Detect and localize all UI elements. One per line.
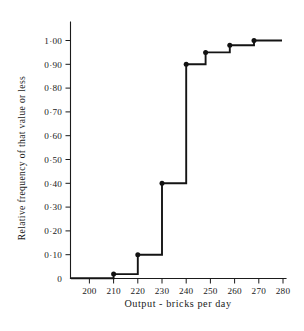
x-tick-label-220: 220: [131, 286, 146, 296]
y-tick-label-0.40: 0·40: [44, 179, 62, 189]
y-tick-label-0.90: 0·90: [44, 60, 62, 70]
y-axis-title: Relative frequency of that value or less: [16, 76, 27, 240]
y-tick-label-0.20: 0·20: [44, 226, 62, 236]
x-tick-label-210: 210: [106, 286, 121, 296]
cumulative-frequency-chart: 1·00 0·90 0·80 0·70 0·60 0·50 0·40 0·30 …: [0, 0, 304, 331]
chart-canvas: 1·00 0·90 0·80 0·70 0·60 0·50 0·40 0·30 …: [0, 0, 304, 331]
data-point-248: [203, 50, 208, 55]
x-tick-label-230: 230: [155, 286, 170, 296]
y-tick-label-0.60: 0·60: [44, 131, 62, 141]
x-tick-label-250: 250: [203, 286, 218, 296]
data-point-230: [160, 181, 165, 186]
y-tick-label-0.80: 0·80: [44, 83, 62, 93]
x-tick-label-280: 280: [276, 286, 291, 296]
cumulative-step-curve: [71, 41, 282, 279]
y-tick-label-0.50: 0·50: [44, 155, 62, 165]
data-point-258: [227, 43, 232, 48]
y-axis-ticks: [66, 41, 71, 255]
x-axis-ticks: [89, 279, 283, 284]
y-tick-label-0.30: 0·30: [44, 202, 62, 212]
x-tick-label-260: 260: [227, 286, 242, 296]
x-axis-title: Output - bricks per day: [124, 298, 231, 309]
data-point-240: [184, 62, 189, 67]
y-tick-label-0.70: 0·70: [44, 107, 62, 117]
x-tick-label-240: 240: [179, 286, 194, 296]
y-tick-label-0: 0: [57, 274, 62, 284]
y-tick-label-1.00: 1·00: [44, 36, 62, 46]
y-tick-label-0.10: 0·10: [44, 250, 62, 260]
data-point-markers: [111, 38, 256, 277]
data-point-210: [111, 272, 116, 277]
data-point-220: [135, 252, 140, 257]
x-tick-label-200: 200: [82, 286, 97, 296]
data-point-268: [252, 38, 257, 43]
x-tick-label-270: 270: [252, 286, 267, 296]
